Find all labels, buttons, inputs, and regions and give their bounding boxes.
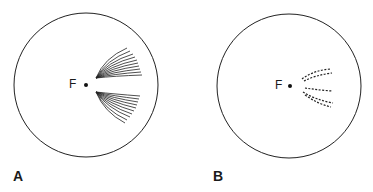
panel-b-label: B (213, 168, 223, 184)
panel-a-label: A (13, 168, 23, 184)
panel-a-lower-curves (96, 92, 140, 123)
panel-a-focus-label: F (69, 77, 76, 91)
panel-a-focus-dot (84, 83, 88, 87)
figure-canvas (0, 0, 373, 192)
panel-b-focus-label: F (275, 78, 282, 92)
panel-b-focus-dot (288, 84, 292, 88)
panel-b-diagram (217, 14, 361, 158)
panel-b-fragment-traces (302, 69, 333, 107)
panel-a-diagram (14, 13, 158, 157)
panel-a-upper-curves (96, 48, 142, 78)
